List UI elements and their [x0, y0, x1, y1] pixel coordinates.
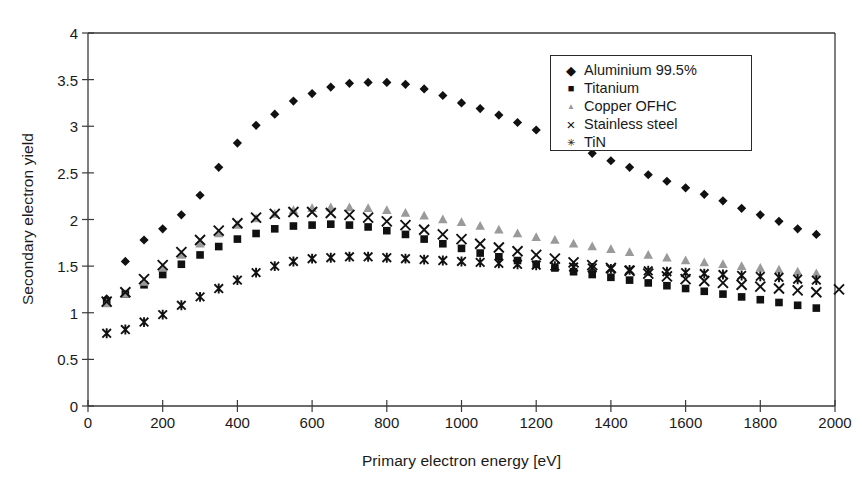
data-point [532, 125, 541, 134]
x-tick-label: 2000 [805, 414, 862, 431]
legend-label: Titanium [584, 81, 639, 96]
data-point [494, 242, 504, 252]
x-tick-label: 1000 [432, 414, 492, 431]
diamond-marker-icon: ◆ [563, 63, 579, 78]
data-point [139, 235, 148, 244]
data-point [475, 221, 485, 230]
data-point [625, 247, 635, 256]
data-point [718, 196, 727, 205]
data-point [757, 296, 765, 304]
data-point [793, 274, 802, 284]
data-point [439, 256, 448, 266]
data-point [475, 239, 485, 249]
data-point [177, 300, 186, 310]
data-point [458, 245, 466, 253]
data-point [214, 284, 223, 294]
data-point [625, 265, 634, 275]
data-point [420, 235, 428, 243]
series-copper-ofhc [102, 202, 821, 307]
data-point [214, 163, 223, 172]
data-point [344, 210, 354, 220]
data-point [420, 255, 429, 265]
data-point [233, 275, 242, 285]
data-point [177, 210, 186, 219]
data-point [663, 282, 671, 290]
data-point [607, 264, 616, 274]
x-tick-label: 1800 [730, 414, 790, 431]
data-point [774, 217, 783, 226]
data-point [438, 91, 447, 100]
data-point [345, 252, 354, 262]
data-point [756, 263, 766, 272]
y-tick-label: 1.5 [38, 258, 78, 275]
legend-label: Stainless steel [584, 117, 678, 132]
data-point [364, 78, 373, 87]
data-point [308, 89, 317, 98]
legend-item-stainless-steel: ×Stainless steel [563, 115, 751, 133]
data-point [308, 254, 317, 264]
data-point [625, 163, 634, 172]
data-point [737, 271, 746, 281]
y-tick-label: 0.5 [38, 351, 78, 368]
data-point [326, 253, 335, 263]
data-point [719, 290, 727, 298]
data-point [382, 78, 391, 87]
data-point [140, 317, 149, 327]
data-point [775, 272, 784, 282]
data-point [606, 156, 615, 165]
data-point [812, 275, 821, 285]
data-point [681, 256, 691, 265]
x-tick-label: 400 [207, 414, 267, 431]
data-point [289, 96, 298, 105]
data-point [346, 221, 354, 229]
legend-label: Aluminium 99.5% [584, 63, 697, 78]
data-point [457, 257, 466, 267]
data-point [644, 170, 653, 179]
legend-label: Copper OFHC [584, 99, 677, 114]
data-point [495, 258, 504, 268]
data-point [606, 244, 616, 253]
data-point [439, 240, 447, 248]
data-point [662, 253, 672, 262]
data-point [178, 260, 186, 268]
chart-legend: ◆Aluminium 99.5%■Titanium▲Copper OFHC×St… [550, 55, 752, 151]
data-point [662, 177, 671, 186]
data-point [513, 118, 522, 127]
data-point [270, 261, 279, 271]
data-point [438, 215, 448, 224]
data-point [251, 121, 260, 130]
data-point [550, 235, 560, 244]
data-point [700, 288, 708, 296]
data-point [738, 293, 746, 301]
data-point [682, 285, 690, 293]
data-point [793, 267, 803, 276]
data-point [531, 232, 541, 241]
data-point [700, 257, 710, 266]
data-point [363, 213, 373, 223]
legend-item-aluminium-99-5: ◆Aluminium 99.5% [563, 61, 751, 79]
data-point [755, 282, 765, 292]
legend-label: TiN [584, 135, 606, 150]
cross-marker-icon: × [563, 116, 579, 133]
data-point [401, 254, 410, 264]
data-point [737, 204, 746, 213]
legend-item-tin: ✳TiN [563, 133, 751, 151]
data-point [383, 253, 392, 263]
data-point [289, 257, 298, 267]
x-tick-label: 1400 [581, 414, 641, 431]
data-point [400, 220, 410, 230]
data-point [308, 221, 316, 229]
y-tick-label: 3.5 [38, 71, 78, 88]
data-point [811, 287, 821, 297]
data-point [663, 267, 672, 277]
data-point [569, 262, 578, 272]
data-point [644, 279, 652, 287]
x-tick-label: 600 [282, 414, 342, 431]
data-point [531, 250, 541, 260]
x-tick-label: 200 [133, 414, 193, 431]
data-point [102, 328, 111, 338]
data-point [382, 205, 392, 214]
data-point [681, 183, 690, 192]
data-point [494, 110, 503, 119]
data-point [419, 211, 429, 220]
